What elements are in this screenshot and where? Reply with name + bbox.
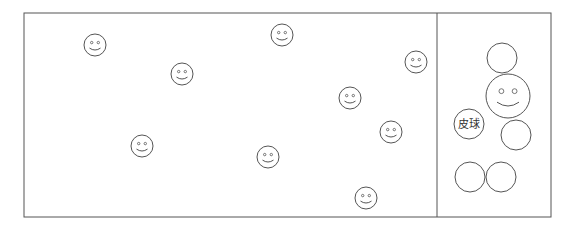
left-panel-smileys [84, 24, 427, 209]
smiley-icon [380, 121, 402, 143]
smiley-icon [84, 34, 106, 56]
ball-label: 皮球 [458, 117, 480, 131]
circle-shape [487, 43, 517, 73]
circle-shape [455, 162, 485, 192]
big-smiley-icon [486, 74, 530, 118]
diagram-canvas: 皮球 [0, 0, 578, 227]
smiley-icon [271, 24, 293, 46]
outer-frame [24, 13, 551, 217]
smiley-icon [355, 187, 377, 209]
smiley-icon [171, 63, 193, 85]
circle-shape [486, 162, 516, 192]
circle-shape [501, 120, 531, 150]
smiley-icon [131, 135, 153, 157]
smiley-icon [405, 51, 427, 73]
smiley-icon [257, 146, 279, 168]
smiley-icon [339, 87, 361, 109]
